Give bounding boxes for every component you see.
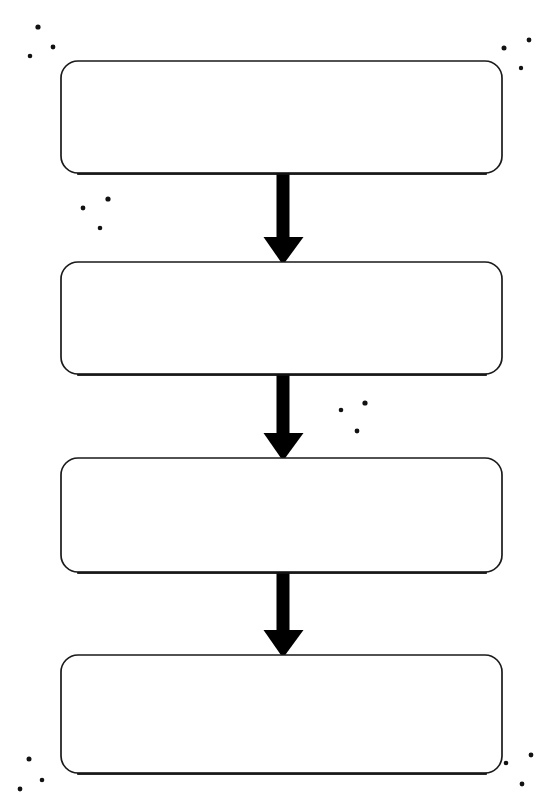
arrow-node1-to-node2[interactable]: [264, 173, 304, 265]
scan-speckle-dot: [502, 46, 507, 51]
arrow-node3-to-node4[interactable]: [264, 572, 304, 658]
flowchart-canvas: [0, 0, 556, 811]
scan-speckle-dot: [527, 38, 532, 43]
scan-speckle-dot: [28, 54, 33, 59]
scan-speckle-dot: [339, 408, 344, 413]
scan-speckle-dot: [504, 761, 509, 766]
scan-speckle-dot: [519, 66, 523, 70]
process-box-1[interactable]: [61, 61, 502, 173]
process-box-3[interactable]: [61, 458, 502, 572]
scan-speckle-dot: [105, 196, 110, 201]
scan-speckle-dot: [355, 429, 360, 434]
scan-speckle-dot: [27, 757, 32, 762]
connector-group: [264, 173, 304, 658]
flowchart-svg: [0, 0, 556, 811]
process-box-2[interactable]: [61, 262, 502, 374]
process-box-4[interactable]: [61, 655, 502, 773]
scan-speckle-dot: [51, 45, 56, 50]
scan-speckle-dot: [529, 753, 534, 758]
scan-speckle-dot: [362, 400, 367, 405]
scan-speckle-dot: [18, 787, 23, 792]
scan-speckle-dot: [98, 226, 103, 231]
scan-speckle-dot: [40, 778, 45, 783]
scan-speckle-dot: [35, 24, 40, 29]
scan-speckle-dot: [81, 206, 86, 211]
arrow-node2-to-node3[interactable]: [264, 374, 304, 461]
scan-speckle-dot: [520, 782, 525, 787]
